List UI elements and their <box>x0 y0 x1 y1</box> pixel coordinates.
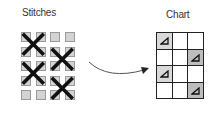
chart-cell <box>187 65 204 83</box>
chart-cell <box>172 65 189 83</box>
curved-arrow-icon <box>86 58 152 80</box>
cross-stitch-icon <box>50 47 75 72</box>
stitches-title: Stitches <box>22 7 56 18</box>
chart-cell <box>187 82 204 100</box>
triangle-symbol-icon <box>160 70 169 78</box>
chart-title: Chart <box>166 9 189 20</box>
stitch-square <box>65 32 75 42</box>
stitch-square <box>36 90 46 100</box>
chart-cell <box>172 82 189 100</box>
stitch-square <box>50 32 60 42</box>
chart-cell <box>156 65 173 83</box>
chart-cell <box>187 49 204 67</box>
chart-cell <box>156 32 173 50</box>
triangle-symbol-icon <box>160 37 169 45</box>
cross-stitch-icon <box>21 32 46 57</box>
stitch-square <box>21 90 31 100</box>
chart-cell <box>156 82 173 100</box>
chart-cell <box>172 49 189 67</box>
chart-cell <box>187 32 204 50</box>
chart-cell <box>156 49 173 67</box>
cross-stitch-icon <box>50 76 75 101</box>
cross-stitch-icon <box>21 61 46 86</box>
chart-cell <box>172 32 189 50</box>
triangle-symbol-icon <box>191 87 200 95</box>
triangle-symbol-icon <box>191 54 200 62</box>
